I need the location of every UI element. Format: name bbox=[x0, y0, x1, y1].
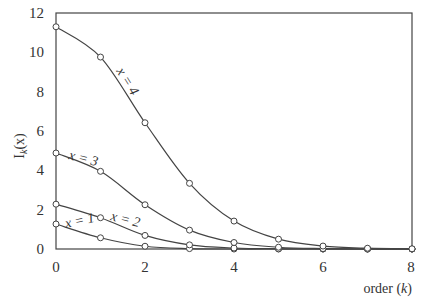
data-point-marker bbox=[98, 215, 104, 221]
data-point-marker bbox=[276, 244, 282, 250]
data-point-marker bbox=[365, 245, 371, 251]
data-point-marker bbox=[409, 246, 415, 252]
x-tick: 4 bbox=[230, 259, 238, 275]
plot-frame bbox=[56, 13, 412, 249]
curve-line bbox=[56, 27, 412, 249]
data-point-marker bbox=[231, 240, 237, 246]
data-point-marker bbox=[142, 202, 148, 208]
data-point-marker bbox=[53, 201, 59, 207]
y-axis-label: Ik(x) bbox=[12, 133, 29, 159]
data-curves bbox=[56, 27, 412, 249]
curve-label-x2: x = 2 bbox=[108, 208, 141, 230]
x-tick: 6 bbox=[319, 259, 327, 275]
data-point-marker bbox=[53, 24, 59, 30]
data-point-marker bbox=[142, 243, 148, 249]
x-tick: 8 bbox=[407, 259, 415, 275]
x-axis-ticks: 0 2 4 6 8 bbox=[52, 259, 415, 275]
data-point-marker bbox=[98, 235, 104, 241]
x-tick: 0 bbox=[52, 259, 60, 275]
y-tick: 10 bbox=[29, 44, 44, 60]
data-point-marker bbox=[187, 242, 193, 248]
curve-label-x1: x = 1 bbox=[63, 210, 96, 231]
curve-line bbox=[56, 153, 412, 249]
data-points bbox=[53, 24, 415, 252]
y-tick: 12 bbox=[29, 5, 44, 21]
data-point-marker bbox=[53, 221, 59, 227]
data-point-marker bbox=[142, 232, 148, 238]
curve-label-x4: x = 4 bbox=[113, 64, 142, 98]
data-point-marker bbox=[187, 180, 193, 186]
data-point-marker bbox=[142, 120, 148, 126]
data-point-marker bbox=[320, 243, 326, 249]
y-tick: 6 bbox=[37, 123, 45, 139]
y-tick: 4 bbox=[37, 162, 45, 178]
x-axis-label: order (k) bbox=[363, 281, 412, 297]
data-point-marker bbox=[98, 54, 104, 60]
chart: 0 2 4 6 8 10 12 0 2 4 6 8 order (k) Ik(x… bbox=[0, 0, 423, 300]
data-point-marker bbox=[98, 168, 104, 174]
y-tick: 8 bbox=[37, 84, 45, 100]
y-tick: 2 bbox=[37, 202, 45, 218]
curve-label-x3: x = 3 bbox=[66, 147, 99, 169]
data-point-marker bbox=[231, 218, 237, 224]
data-point-marker bbox=[53, 150, 59, 156]
x-tick: 2 bbox=[141, 259, 149, 275]
y-tick: 0 bbox=[37, 241, 45, 257]
data-point-marker bbox=[276, 236, 282, 242]
data-point-marker bbox=[187, 227, 193, 233]
y-axis-ticks: 0 2 4 6 8 10 12 bbox=[29, 5, 45, 257]
